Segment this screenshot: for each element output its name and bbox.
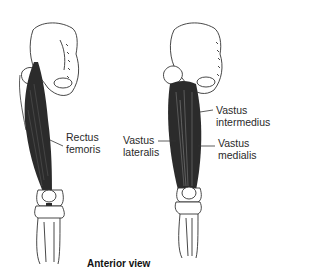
right-knee-and-tibia <box>175 187 201 258</box>
label-vastus-lateralis: Vastus lateralis <box>123 134 159 158</box>
label-line-2: intermedius <box>216 116 270 128</box>
label-line-1: Vastus <box>218 137 257 149</box>
figure-caption: Anterior view <box>87 258 150 269</box>
label-vastus-intermedius: Vastus intermedius <box>216 104 270 128</box>
label-line-2: medialis <box>218 149 257 161</box>
left-knee-and-tibia <box>35 190 65 264</box>
label-rectus-femoris: Rectus femoris <box>66 131 100 155</box>
label-line-1: Vastus <box>123 134 159 146</box>
right-vastus-muscles <box>168 81 201 190</box>
label-line-1: Rectus <box>66 131 100 143</box>
label-line-2: lateralis <box>123 146 159 158</box>
label-vastus-medialis: Vastus medialis <box>218 137 257 161</box>
label-line-2: femoris <box>66 143 100 155</box>
label-line-1: Vastus <box>216 104 270 116</box>
